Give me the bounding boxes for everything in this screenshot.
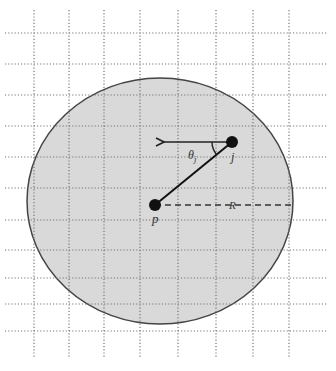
theta-subscript: j <box>193 154 197 164</box>
diagram-canvas: p j R θj <box>0 0 336 371</box>
point-p-dot <box>149 199 161 211</box>
point-p-label: p <box>151 211 159 226</box>
radius-label: R <box>228 199 236 211</box>
point-j-dot <box>226 136 238 148</box>
